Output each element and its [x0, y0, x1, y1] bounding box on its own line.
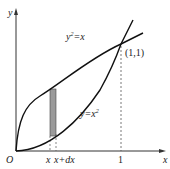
x-axis-label: x	[162, 154, 168, 165]
y-axis-label: y	[7, 7, 13, 18]
area-diagram: y x O y2=x y=x2 (1,1) 1 x x+dx	[0, 0, 170, 169]
y-axis-arrow-icon	[14, 8, 18, 15]
intersection-label: (1,1)	[125, 47, 144, 59]
area-strip	[50, 89, 56, 136]
tick-one-label: 1	[118, 154, 123, 165]
curve-sqrt-label: y2=x	[65, 31, 85, 42]
tick-x-dx-label: x+dx	[53, 154, 75, 165]
x-axis-arrow-icon	[159, 149, 166, 153]
curve-square-label: y=x2	[79, 108, 99, 119]
tick-x-label: x	[45, 154, 51, 165]
curve-sqrt	[16, 33, 143, 151]
origin-label: O	[6, 154, 13, 165]
